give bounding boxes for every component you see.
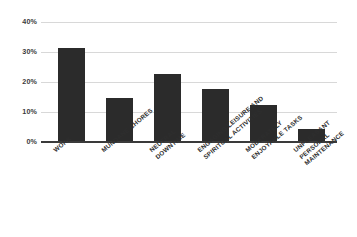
y-tick-label-40: 40% (3, 18, 37, 25)
gridline-20 (41, 82, 337, 83)
bar-chart-plot-area: 40% 30% 20% 10% 0% WORK MUNDANE CHORES N… (0, 0, 357, 237)
y-tick-label-20: 20% (3, 78, 37, 85)
x-axis-baseline (41, 141, 337, 143)
gridline-40 (41, 22, 337, 23)
gridline-30 (41, 52, 337, 53)
y-tick-label-10: 10% (3, 108, 37, 115)
y-tick-label-30: 30% (3, 48, 37, 55)
chart-page: 40% 30% 20% 10% 0% WORK MUNDANE CHORES N… (0, 0, 357, 237)
y-tick-label-0: 0% (3, 138, 37, 145)
bar-work[interactable] (58, 48, 85, 141)
x-label-work: WORK (52, 135, 74, 155)
